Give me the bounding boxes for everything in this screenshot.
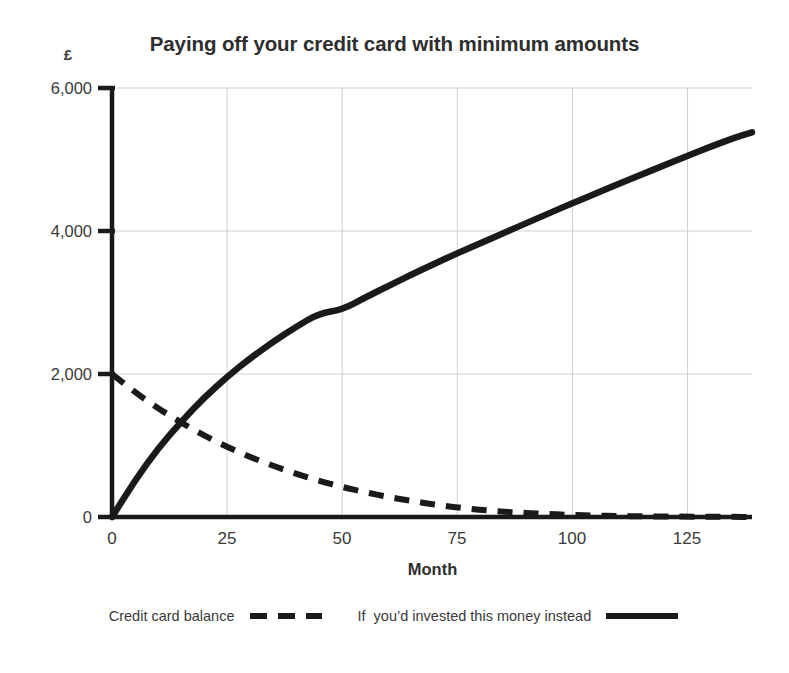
legend-swatch-dashed-icon [248,611,324,621]
legend-entry-invested-money: If you’d invested this money instead [358,608,681,624]
chart-legend: Credit card balance If you’d invested th… [0,608,789,624]
data-series [112,132,752,517]
y-tick-label-6000: 6,000 [20,79,92,98]
legend-label-invested-money: If you’d invested this money instead [358,608,592,624]
legend-swatch-solid-icon [604,611,680,621]
x-tick-label-50: 50 [312,529,372,549]
y-tick-label-2000: 2,000 [20,365,92,384]
x-axis-title: Month [112,560,753,579]
legend-entry-credit-card-balance: Credit card balance [109,608,324,624]
chart-figure: Paying off your credit card with minimum… [0,0,789,673]
x-tick-label-75: 75 [427,529,487,549]
axis-lines [112,88,752,517]
y-tick-label-0: 0 [20,508,92,527]
x-tick-label-100: 100 [542,529,602,549]
y-tick-label-4000: 4,000 [20,222,92,241]
legend-label-credit-card-balance: Credit card balance [109,608,235,624]
x-tick-label-125: 125 [657,529,717,549]
x-tick-label-25: 25 [197,529,257,549]
y-axis-tick-labels: 6,000 4,000 2,000 0 [20,0,92,673]
gridlines [112,88,752,517]
x-tick-label-0: 0 [82,529,142,549]
chart-title: Paying off your credit card with minimum… [0,32,789,56]
